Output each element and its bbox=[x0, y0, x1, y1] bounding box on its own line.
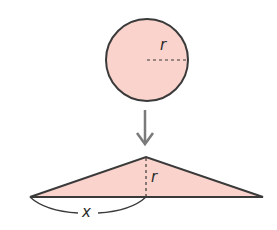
circle-radius-label: r bbox=[160, 38, 166, 53]
down-arrow-icon bbox=[137, 110, 153, 144]
circle-group bbox=[106, 19, 188, 101]
triangle-half-base-label: x bbox=[82, 205, 91, 220]
triangle-height-label: r bbox=[151, 170, 157, 185]
half-base-brace bbox=[30, 197, 78, 213]
diagram-canvas bbox=[0, 0, 277, 230]
half-base-brace-right bbox=[98, 197, 146, 213]
triangle-group bbox=[30, 157, 263, 213]
